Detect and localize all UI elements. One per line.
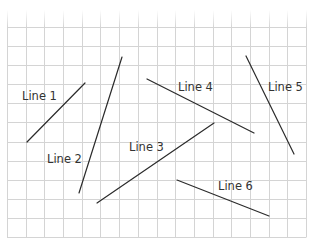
grid-line-vertical-stub bbox=[269, 10, 270, 27]
grid-line-vertical-stub bbox=[194, 10, 195, 27]
line-1: Line 1 bbox=[22, 83, 85, 142]
line-5-label: Line 5 bbox=[268, 80, 303, 94]
grid-line-vertical-stub bbox=[213, 10, 214, 27]
grid-line-vertical-stub bbox=[231, 10, 232, 27]
line-6: Line 6 bbox=[177, 179, 269, 216]
line-5: Line 5 bbox=[246, 56, 303, 154]
line-4: Line 4 bbox=[147, 79, 254, 133]
grid bbox=[7, 10, 307, 238]
grid-line-vertical-stub bbox=[175, 10, 176, 27]
grid-line-vertical-stub bbox=[119, 10, 120, 27]
line-3-segment bbox=[97, 123, 214, 203]
line-1-label: Line 1 bbox=[22, 89, 57, 103]
grid-line-vertical-stub bbox=[7, 10, 8, 27]
line-3-label: Line 3 bbox=[129, 140, 164, 154]
line-4-label: Line 4 bbox=[178, 80, 213, 94]
line-3: Line 3 bbox=[97, 123, 214, 203]
grid-line-vertical-stub bbox=[44, 10, 45, 27]
grid-line-vertical-stub bbox=[63, 10, 64, 27]
grid-line-vertical-stub bbox=[26, 10, 27, 27]
grid-line-vertical-stub bbox=[82, 10, 83, 27]
line-6-label: Line 6 bbox=[218, 179, 253, 193]
grid-line-vertical-stub bbox=[157, 10, 158, 27]
line-2: Line 2 bbox=[47, 57, 122, 193]
line-segments: Line 1Line 2Line 3Line 4Line 5Line 6 bbox=[22, 56, 303, 216]
grid-line-vertical-stub bbox=[306, 10, 307, 27]
grid-line-vertical-stub bbox=[287, 10, 288, 27]
grid-line-vertical-stub bbox=[100, 10, 101, 27]
grid-line-vertical-stub bbox=[250, 10, 251, 27]
line-segments-diagram: Line 1Line 2Line 3Line 4Line 5Line 6 bbox=[0, 0, 312, 247]
line-2-label: Line 2 bbox=[47, 152, 82, 166]
grid-line-vertical-stub bbox=[138, 10, 139, 27]
